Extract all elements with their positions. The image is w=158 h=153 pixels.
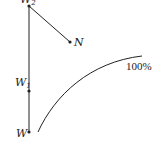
label-w: W [16, 127, 29, 140]
diagram-canvas: W2 N W1 W 100% [0, 0, 158, 153]
point-w [27, 130, 30, 133]
point-n [68, 40, 71, 43]
label-100-percent: 100% [126, 60, 152, 72]
segment-w2-n [29, 6, 70, 42]
label-n: N [73, 36, 84, 49]
label-w1: W1 [15, 76, 31, 90]
diagram-svg: W2 N W1 W 100% [0, 0, 158, 153]
label-w2: W2 [20, 0, 36, 7]
